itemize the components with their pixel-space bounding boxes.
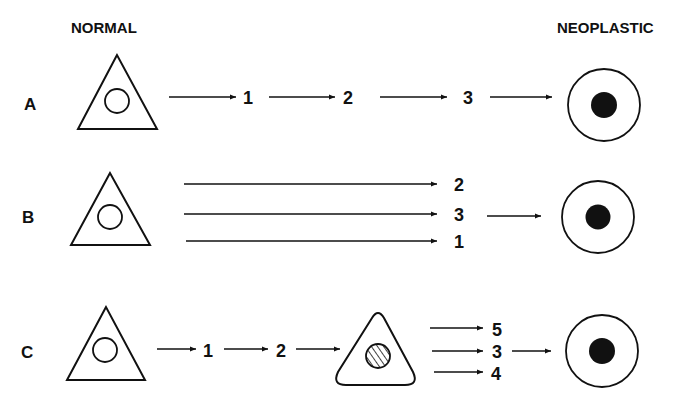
row-label-a: A (24, 95, 36, 114)
row-b-step: 3 (454, 205, 464, 225)
row-c-step: 1 (203, 341, 213, 361)
intermediate-cell-icon (336, 313, 415, 385)
row-c-step: 2 (276, 341, 286, 361)
normal-cell-icon (71, 173, 150, 245)
row-c-step: 5 (492, 320, 502, 340)
row-a-step: 3 (463, 88, 473, 108)
normal-cell-icon (78, 55, 157, 129)
normal-cell-icon (67, 307, 145, 380)
row-label-b: B (22, 208, 34, 227)
row-c-step: 4 (491, 364, 501, 384)
row-b-step: 1 (454, 232, 464, 252)
neoplastic-cell-icon (568, 69, 640, 141)
row-a-step: 2 (343, 88, 353, 108)
carcinogenesis-diagram: NORMAL NEOPLASTIC A B C 1 2 3 2 3 1 1 2 (0, 0, 696, 409)
neoplastic-header: NEOPLASTIC (557, 19, 654, 36)
row-label-c: C (21, 343, 33, 362)
neoplastic-cell-icon (562, 181, 634, 253)
neoplastic-cell-icon (566, 315, 638, 387)
row-b-step: 2 (454, 175, 464, 195)
row-a-step: 1 (243, 88, 253, 108)
normal-header: NORMAL (71, 19, 137, 36)
row-c-step: 3 (492, 342, 502, 362)
